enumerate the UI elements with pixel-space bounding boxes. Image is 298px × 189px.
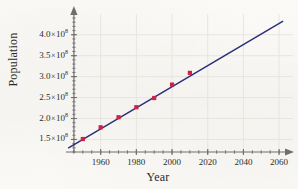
data-point: [81, 137, 85, 141]
data-point: [170, 82, 174, 86]
y-tick-label: 2.0×108: [39, 113, 68, 123]
y-tick-label: 4.0×108: [39, 29, 68, 39]
tick-marks-group: [71, 18, 288, 155]
y-tick-label: 2.5×108: [39, 92, 68, 102]
data-point: [99, 125, 103, 129]
x-tick-label: 2020: [190, 157, 226, 167]
y-tick-label: 3.0×108: [39, 71, 68, 81]
x-tick-label: 2000: [154, 157, 190, 167]
x-axis-title: Year: [128, 170, 188, 185]
axes-group: [66, 6, 294, 156]
chart-figure: Population Year 1.5×1082.0×1082.5×1083.0…: [0, 0, 298, 189]
y-axis-title: Population: [6, 19, 21, 101]
x-tick-label: 2060: [261, 157, 297, 167]
data-point: [152, 96, 156, 100]
data-point: [134, 105, 138, 109]
y-tick-label: 3.5×108: [39, 50, 68, 60]
data-point: [116, 115, 120, 119]
x-tick-label: 1980: [118, 157, 154, 167]
x-tick-label: 2040: [225, 157, 261, 167]
y-tick-label: 1.5×108: [39, 133, 68, 143]
x-tick-label: 1960: [83, 157, 119, 167]
data-point: [188, 71, 192, 75]
